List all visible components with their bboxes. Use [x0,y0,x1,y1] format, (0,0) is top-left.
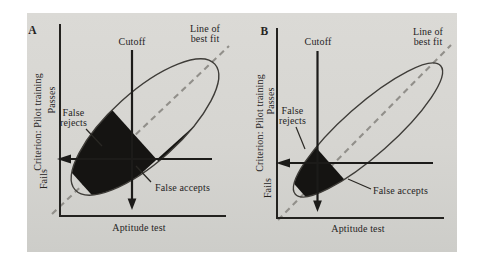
panel-b-y-axis-passes-label: Passes [266,87,276,114]
panel-b-cutoff-label: Cutoff [305,37,332,47]
panel-a-best-fit-label-line2: best fit [190,34,220,44]
panel-a-cutoff-arrowhead [128,199,137,211]
panel-a-letter: A [28,25,36,35]
panel-b-best-fit-label: Line of best fit [413,27,443,47]
panel-a-cutoff-label: Cutoff [119,37,146,47]
panel-b-false-rejects-leader [296,127,305,149]
panel-b-y-axis-label: Criterion: Pilot training [255,74,265,172]
figure-linework [0,0,478,270]
panel-a-y-axis-passes-label: Passes [47,86,57,113]
panel-b-false-accepts-label: False accepts [373,186,428,196]
panel-b-false-rejects-label-line2: rejects [279,116,306,126]
panel-a-best-fit-label: Line of best fit [190,24,220,44]
panel-a-false-accepts-label: False accepts [155,183,210,193]
panel-b-false-rejects-label: False rejects [279,106,306,126]
panel-a-x-axis-label: Aptitude test [112,223,165,233]
panel-b-x-axis-label: Aptitude test [331,224,384,234]
panel-b-letter: B [261,26,269,36]
panel-b-false-accepts-leader [348,179,371,189]
panel-b-y-axis-fails-label: Fails [263,178,273,198]
panel-a-false-rejects-label: False rejects [60,108,87,128]
page: A Cutoff Line of best fit False rejects … [0,0,478,270]
panel-a-y-axis-label: Criterion: Pilot training [33,73,43,171]
panel-b-cutoff-arrowhead [313,201,322,213]
panel-b-criterion-arrowhead [276,159,290,168]
panel-a-y-axis-fails-label: Fails [39,169,49,189]
panel-a-false-rejects-label-line2: rejects [60,118,87,128]
panel-b-best-fit-label-line2: best fit [413,37,443,47]
